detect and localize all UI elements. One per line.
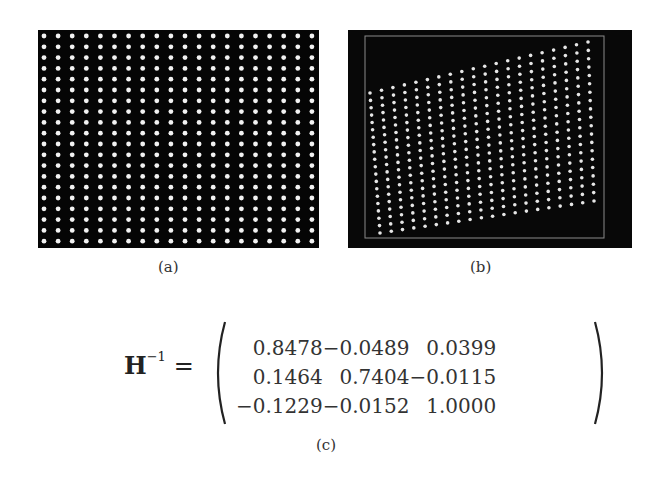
inverse-superscript: −1 [147,349,166,364]
matrix-cell: 0.1464 [236,363,323,392]
matrix-cell: 1.0000 [410,392,497,421]
caption-a: (a) [158,258,179,276]
dot-grid-image [38,30,319,248]
caption-c: (c) [316,436,336,454]
matrix-cell: 0.7404 [323,363,410,392]
right-parenthesis-icon [591,318,611,428]
matrix-cell: 0.8478 [236,334,323,363]
equals-sign: = [174,352,194,380]
matrix-cell: −0.0152 [323,392,410,421]
matrix-cell: −0.1229 [236,392,323,421]
panel-b-warped-dot-grid [348,30,632,248]
equation-lhs: H−1= [124,351,194,380]
inverse-homography-matrix: 0.8478−0.04890.03990.14640.7404−0.0115−0… [236,334,496,421]
panel-a-regular-dot-grid [38,30,319,248]
matrix-cell: 0.0399 [410,334,497,363]
caption-b: (b) [470,258,491,276]
matrix-row: 0.14640.7404−0.0115 [236,363,496,392]
left-parenthesis-icon [209,318,229,428]
matrix-cell: −0.0115 [410,363,497,392]
warped-dot-grid-image [348,30,632,248]
matrix-symbol: H [124,351,147,380]
matrix-row: −0.1229−0.01521.0000 [236,392,496,421]
matrix-cell: −0.0489 [323,334,410,363]
matrix-row: 0.8478−0.04890.0399 [236,334,496,363]
